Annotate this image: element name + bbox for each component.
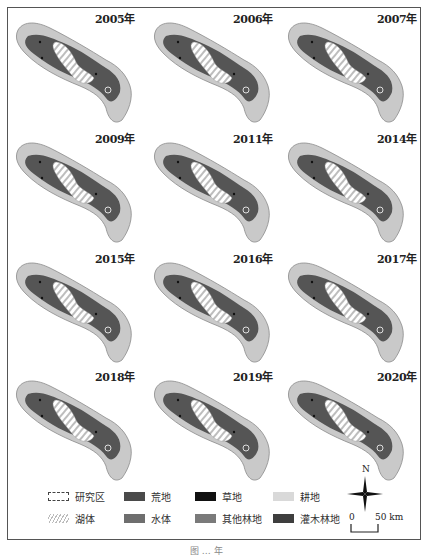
study-area-swatch-icon <box>48 492 69 501</box>
lake-hatch-swatch-icon <box>48 514 69 523</box>
map-panel: 2019年 <box>148 366 288 486</box>
map-panel: 2014年 <box>282 128 422 248</box>
barren-swatch-icon <box>124 492 145 501</box>
year-label: 2009年 <box>95 130 135 146</box>
scale-end-label: 50 km <box>375 512 403 522</box>
cropland-swatch-icon <box>273 492 294 501</box>
year-label: 2020年 <box>377 368 417 384</box>
map-panel: 2007年 <box>282 8 422 128</box>
shrubland-swatch-icon <box>273 514 294 523</box>
map-panel: 2018年 <box>10 366 150 486</box>
legend-label: 荒地 <box>151 489 171 504</box>
legend-label: 研究区 <box>75 489 105 504</box>
scale-line-icon <box>350 524 390 534</box>
map-panel: 2017年 <box>282 248 422 368</box>
legend-item-lake: 湖体 <box>48 511 95 526</box>
water-swatch-icon <box>124 514 145 523</box>
study-area-map-icon <box>10 128 150 248</box>
year-label: 2011年 <box>233 130 273 146</box>
legend-item-water: 水体 <box>124 511 171 526</box>
study-area-map-icon <box>148 8 288 128</box>
year-label: 2014年 <box>377 130 417 146</box>
other-forest-swatch-icon <box>195 514 216 523</box>
year-label: 2007年 <box>377 10 417 26</box>
map-panel: 2015年 <box>10 248 150 368</box>
legend-label: 湖体 <box>75 511 95 526</box>
year-label: 2019年 <box>233 368 273 384</box>
legend-item-barren: 荒地 <box>124 489 171 504</box>
year-label: 2015年 <box>95 250 135 266</box>
study-area-map-icon <box>148 128 288 248</box>
legend-label: 耕地 <box>300 489 320 504</box>
legend-label: 灌木林地 <box>300 511 340 526</box>
year-label: 2017年 <box>377 250 417 266</box>
study-area-map-icon <box>282 128 422 248</box>
study-area-map-icon <box>148 248 288 368</box>
study-area-map-icon <box>282 8 422 128</box>
map-panel: 2011年 <box>148 128 288 248</box>
legend-item-study-area: 研究区 <box>48 489 105 504</box>
study-area-map-icon <box>10 248 150 368</box>
study-area-map-icon <box>148 366 288 486</box>
study-area-map-icon <box>10 366 150 486</box>
compass-icon <box>345 474 385 514</box>
legend-label: 草地 <box>222 489 242 504</box>
legend-item-shrubland: 灌木林地 <box>273 511 340 526</box>
study-area-map-icon <box>10 8 150 128</box>
legend-label: 水体 <box>151 511 171 526</box>
map-panel: 2006年 <box>148 8 288 128</box>
map-panel: 2016年 <box>148 248 288 368</box>
year-label: 2005年 <box>95 10 135 26</box>
north-label: N <box>362 464 370 474</box>
figure-caption: 图 … 年 <box>190 544 223 557</box>
legend-item-cropland: 耕地 <box>273 489 320 504</box>
year-label: 2006年 <box>233 10 273 26</box>
year-label: 2018年 <box>95 368 135 384</box>
map-panel: 2009年 <box>10 128 150 248</box>
legend: 研究区 荒地 草地 耕地 湖体 水体 其他林地 灌木林地 <box>48 487 348 531</box>
north-arrow: N <box>345 468 385 508</box>
scale-start-label: 0 <box>349 512 355 522</box>
map-panel: 2005年 <box>10 8 150 128</box>
study-area-map-icon <box>282 248 422 368</box>
year-label: 2016年 <box>233 250 273 266</box>
legend-label: 其他林地 <box>222 511 262 526</box>
scale-bar: 0 50 km <box>349 512 409 536</box>
legend-item-grassland: 草地 <box>195 489 242 504</box>
grassland-swatch-icon <box>195 492 216 501</box>
legend-item-other-forest: 其他林地 <box>195 511 262 526</box>
